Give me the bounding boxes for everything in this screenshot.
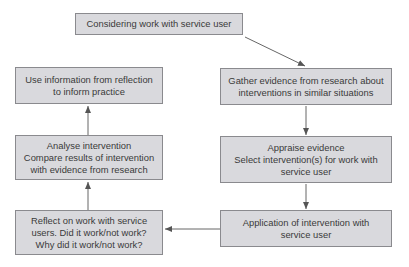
node-application-line-2: service user xyxy=(281,229,332,241)
arrow-considering-to-gather xyxy=(245,37,305,66)
node-application-line-1: Application of intervention with xyxy=(243,217,370,229)
node-gather-line-1: Gather evidence from research about xyxy=(228,75,383,87)
node-use-info: Use information from reflection to infor… xyxy=(15,67,163,104)
node-appraise-line-1: Appraise evidence xyxy=(267,142,344,154)
node-analyse-line-3: with evidence from research xyxy=(30,164,147,176)
node-reflect-line-1: Reflect on work with service xyxy=(31,215,147,227)
node-appraise-line-3: service user xyxy=(281,166,332,178)
node-appraise-line-2: Select intervention(s) for work with xyxy=(234,154,377,166)
node-reflect: Reflect on work with service users. Did … xyxy=(15,210,163,255)
node-analyse: Analyse intervention Compare results of … xyxy=(15,135,163,180)
node-use-info-line-1: Use information from reflection xyxy=(25,74,153,86)
node-use-info-line-2: to inform practice xyxy=(53,86,125,98)
node-reflect-line-3: Why did it work/not work? xyxy=(36,239,143,251)
node-analyse-line-1: Analyse intervention xyxy=(47,140,131,152)
node-considering-line-1: Considering work with service user xyxy=(87,18,232,30)
node-gather-line-2: interventions in similar situations xyxy=(239,87,374,99)
node-considering: Considering work with service user xyxy=(75,13,243,35)
node-reflect-line-2: users. Did it work/not work? xyxy=(31,227,146,239)
node-analyse-line-2: Compare results of intervention xyxy=(24,152,154,164)
node-application: Application of intervention with service… xyxy=(220,210,392,247)
node-appraise: Appraise evidence Select intervention(s)… xyxy=(220,136,392,183)
node-gather: Gather evidence from research about inte… xyxy=(220,68,392,105)
